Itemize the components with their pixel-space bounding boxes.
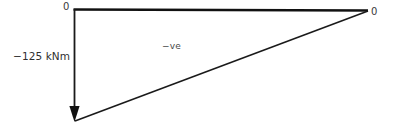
zero-label-left: 0 bbox=[63, 2, 69, 12]
bending-moment-diagram bbox=[0, 0, 396, 129]
zero-label-right: 0 bbox=[371, 7, 377, 17]
negative-sign-label: −ve bbox=[162, 42, 181, 51]
bending-moment-figure: 0 0 −ve −125 kNm bbox=[0, 0, 396, 129]
zero-baseline bbox=[74, 10, 369, 11]
moment-slope-line bbox=[75, 11, 368, 121]
moment-magnitude-label: −125 kNm bbox=[13, 51, 70, 62]
